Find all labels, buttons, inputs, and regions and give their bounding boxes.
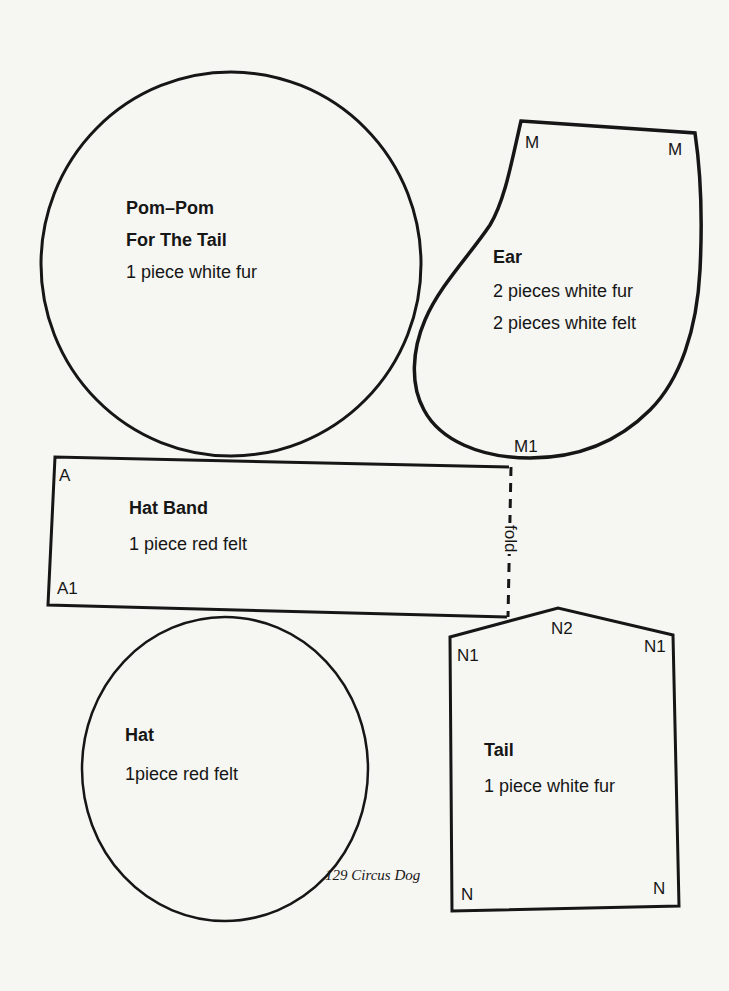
tail-mark-n-left: N	[461, 886, 473, 903]
tail-mark-n1-left: N1	[457, 647, 479, 664]
ear-instructions-felt: 2 pieces white felt	[493, 314, 636, 332]
hat-band-outline	[48, 457, 509, 617]
hat-instructions: 1piece red felt	[125, 765, 238, 783]
fold-label: fold	[500, 523, 520, 554]
hat-band-mark-a1: A1	[57, 580, 78, 597]
hat-band-instructions: 1 piece red felt	[129, 535, 247, 553]
hat-band-mark-a: A	[59, 467, 70, 484]
ear-instructions-fur: 2 pieces white fur	[493, 282, 633, 300]
pompom-title-line2: For The Tail	[126, 231, 227, 249]
tail-title: Tail	[484, 741, 514, 759]
ear-mark-m1: M1	[514, 438, 538, 455]
ear-mark-m-left: M	[525, 134, 539, 151]
ear-title: Ear	[493, 248, 522, 266]
hat-band-title: Hat Band	[129, 499, 208, 517]
tail-mark-n1-right: N1	[644, 638, 666, 655]
hat-title: Hat	[125, 726, 154, 744]
tail-instructions: 1 piece white fur	[484, 777, 615, 795]
tail-mark-n2: N2	[551, 620, 573, 637]
pompom-title-line1: Pom–Pom	[126, 199, 214, 217]
page-footer: 129 Circus Dog	[325, 867, 420, 884]
ear-mark-m-right: M	[668, 141, 682, 158]
tail-mark-n-right: N	[653, 880, 665, 897]
pattern-outlines	[0, 0, 729, 991]
pompom-instructions: 1 piece white fur	[126, 263, 257, 281]
